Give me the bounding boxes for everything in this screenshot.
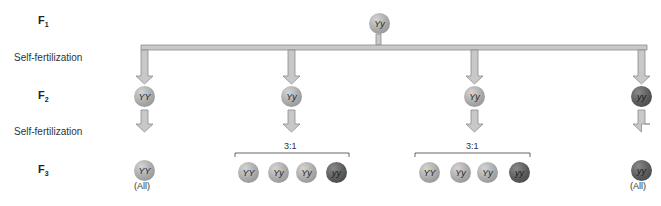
f3-col3-pea-3: Yy (477, 162, 498, 183)
f2-pea-1: YY (134, 86, 155, 107)
genotype-label: yy (515, 168, 524, 178)
genotype-label: YY (423, 168, 435, 178)
f3-col3-pea-1: YY (419, 162, 440, 183)
f3-col2-ratio: 3:1 (284, 141, 297, 151)
f3-col2-pea-2: Yy (268, 162, 289, 183)
arrow-down-icon (633, 50, 650, 84)
f3-col3-pea-2: Yy (450, 162, 471, 183)
horizontal-branch-bar (141, 45, 647, 50)
f3-col3-ratio: 3:1 (466, 141, 479, 151)
f3-col2-pea-1: YY (238, 162, 259, 183)
arrow-down-icon (283, 50, 300, 84)
genotype-label: YY (138, 166, 150, 176)
arrow-down-icon (136, 110, 153, 132)
genotype-label: YY (138, 92, 150, 102)
f2-pea-4: yy (631, 86, 652, 107)
arrow-down-icon (283, 110, 300, 132)
arrow-down-icon (633, 110, 650, 132)
arrow-down-icon (136, 50, 153, 84)
f2-pea-3: Yy (464, 86, 485, 107)
f3-col1-pea: YY (134, 160, 155, 181)
genotype-label: Yy (273, 168, 284, 178)
genotype-label: YY (242, 168, 254, 178)
genotype-label: Yy (374, 19, 385, 29)
f3-col2-pea-4: yy (326, 162, 347, 183)
f2-pea-2: Yy (281, 86, 302, 107)
f1-parent-pea: Yy (369, 13, 390, 34)
f3-col4-pea: yy (631, 160, 652, 181)
genotype-label: yy (637, 166, 646, 176)
arrow-down-icon (466, 110, 483, 132)
genotype-label: yy (332, 168, 341, 178)
parent-stem-connector (376, 34, 381, 45)
genotype-label: Yy (482, 168, 493, 178)
f3-col4-note: (All) (630, 181, 646, 191)
genotype-label: yy (637, 92, 646, 102)
ratio-bracket (235, 153, 349, 157)
genotype-label: Yy (455, 168, 466, 178)
f3-col2-pea-3: Yy (296, 162, 317, 183)
arrow-down-icon (466, 50, 483, 84)
f3-col3-pea-4: yy (509, 162, 530, 183)
f3-col1-note: (All) (134, 181, 150, 191)
ratio-bracket (415, 153, 530, 157)
genotype-label: Yy (469, 92, 480, 102)
genotype-label: Yy (301, 168, 312, 178)
genotype-label: Yy (286, 92, 297, 102)
